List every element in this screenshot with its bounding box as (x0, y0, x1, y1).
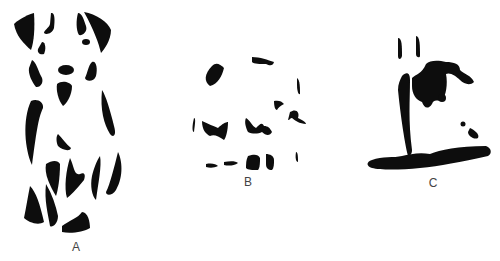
figure-label-a: A (66, 240, 86, 254)
figure-label-b: B (238, 175, 258, 189)
fragmented-image-a (0, 0, 170, 261)
figure-b: B (180, 0, 330, 261)
fragmented-image-b (180, 0, 330, 261)
figure-label-c: C (423, 176, 443, 190)
fragmented-image-c (350, 0, 500, 261)
figure-c: C (350, 0, 500, 261)
figure-a: A (0, 0, 170, 261)
